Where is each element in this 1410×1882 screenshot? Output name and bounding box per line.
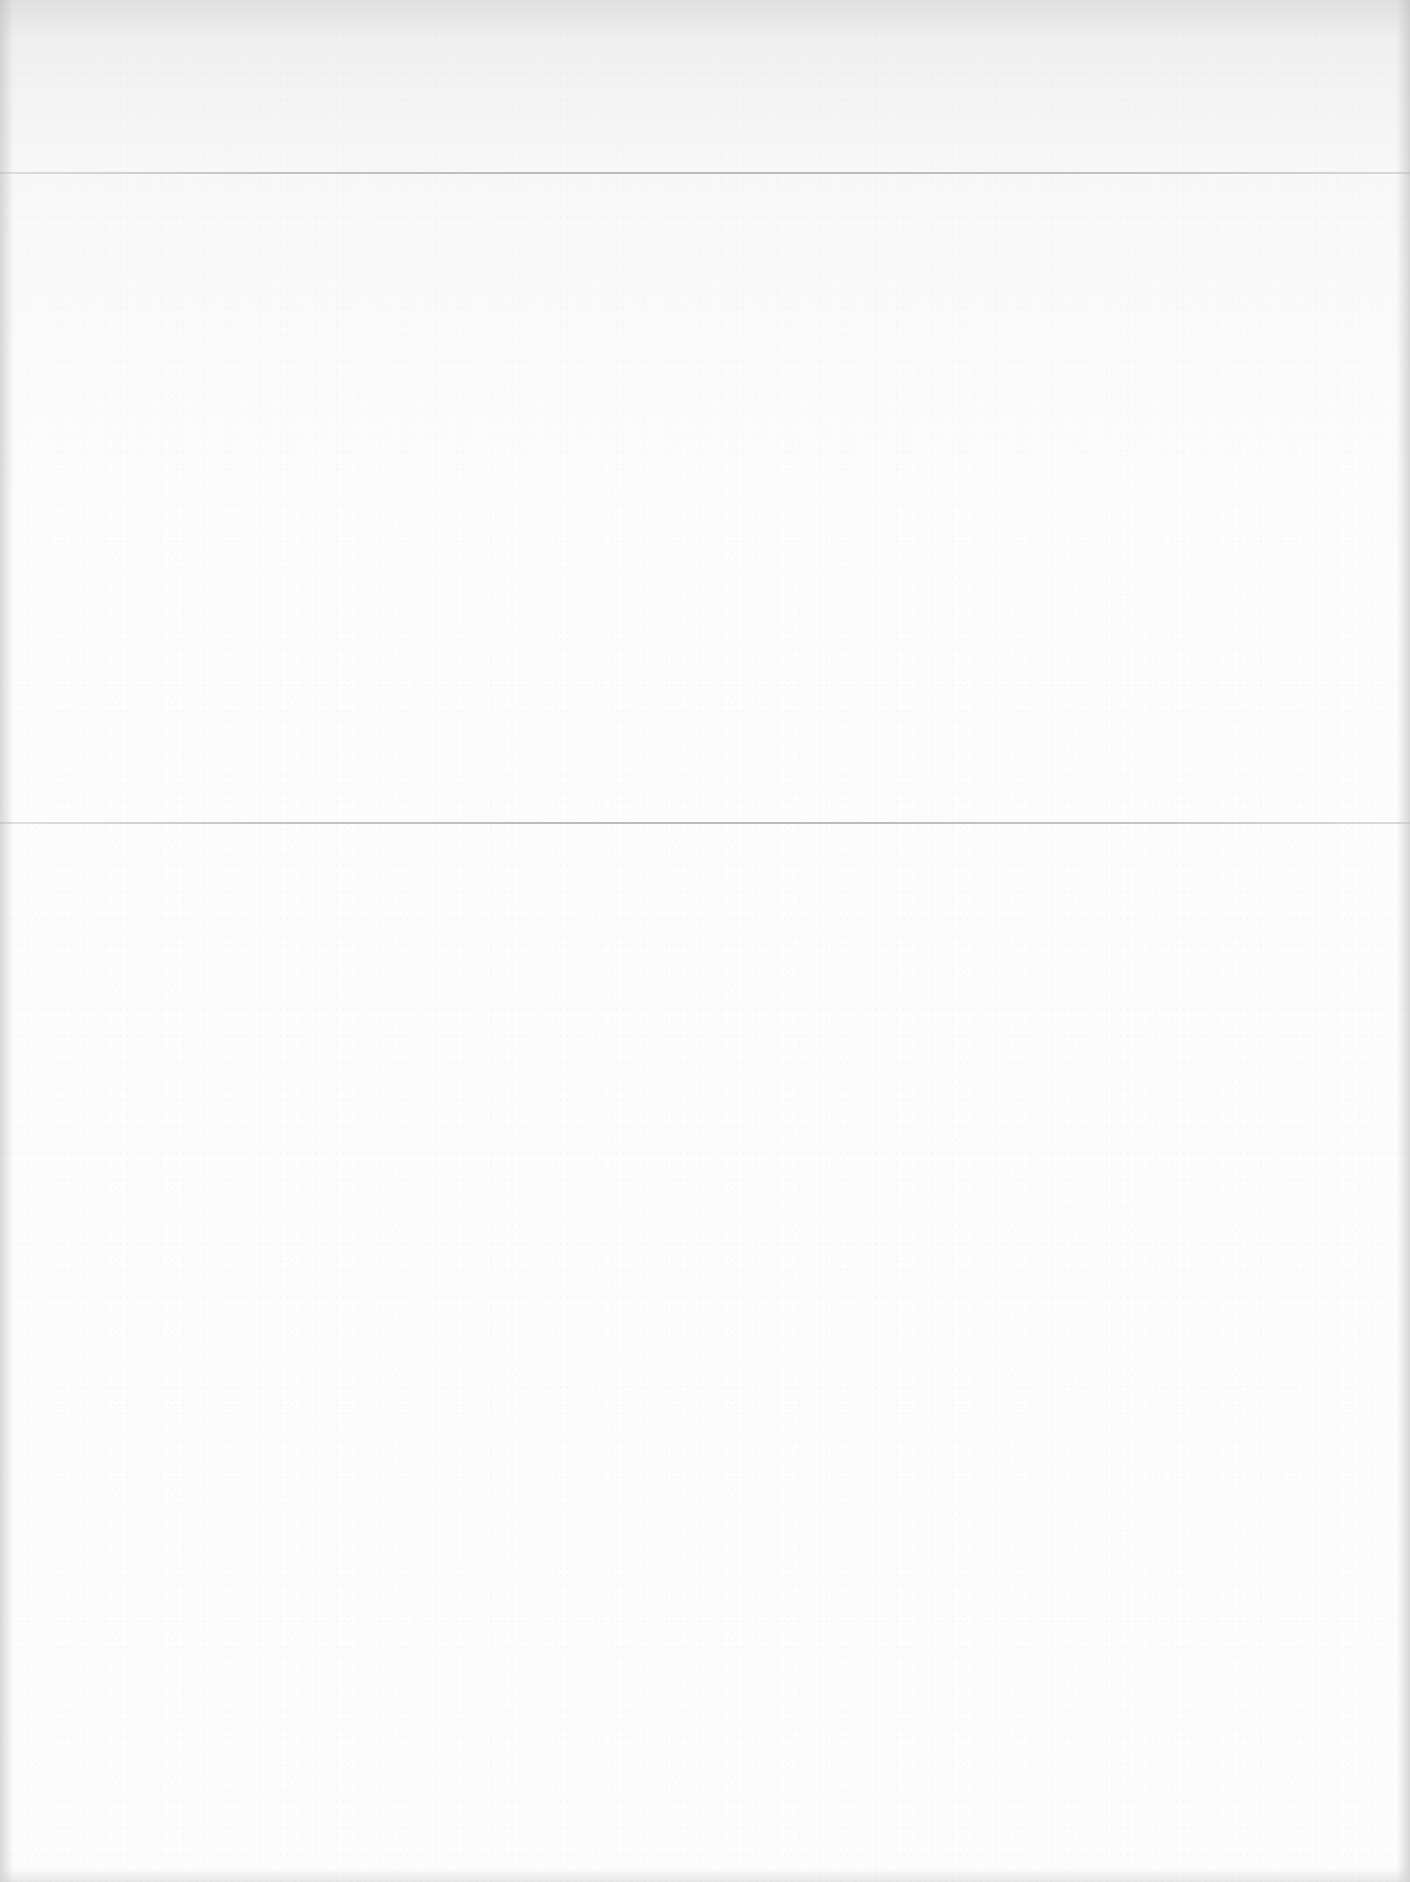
paper-texture	[0, 0, 1410, 1882]
lower-fold-line	[0, 822, 1410, 824]
top-scan-shading	[0, 0, 1410, 560]
left-scan-edge	[0, 0, 14, 1882]
bottom-scan-edge	[0, 1868, 1410, 1882]
right-scan-edge	[1396, 0, 1410, 1882]
upper-fold-line	[0, 172, 1410, 174]
scanned-page	[0, 0, 1410, 1882]
